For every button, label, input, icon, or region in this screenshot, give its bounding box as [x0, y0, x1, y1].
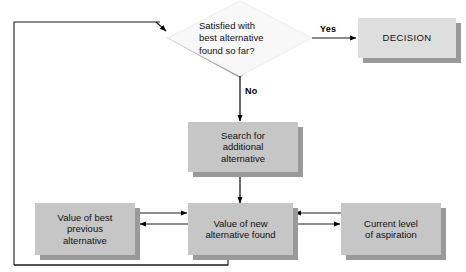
aspiration-box[interactable]: Current level of aspiration [341, 203, 441, 255]
search-box[interactable]: Search for additional alternative [188, 122, 298, 172]
new-value-box[interactable]: Value of new alternative found [188, 203, 293, 255]
outer-loop-arrowhead [156, 22, 166, 31]
previous-value-box[interactable]: Value of best previous alternative [35, 203, 135, 255]
edge-label-yes: Yes [320, 24, 336, 34]
decision-diamond-label: Satisfied with best alternative found so… [199, 20, 309, 57]
flowchart-canvas: Satisfied with best alternative found so… [0, 0, 466, 272]
edge-label-no: No [245, 86, 257, 96]
decision-box[interactable]: DECISION [358, 18, 456, 58]
